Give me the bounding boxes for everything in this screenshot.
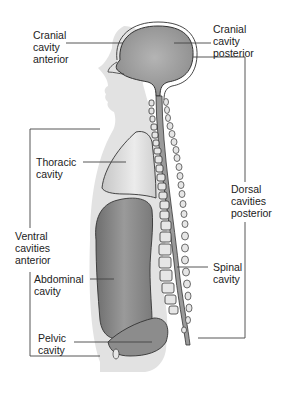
label-ventral-cavities-anterior: Ventral cavities anterior (15, 230, 51, 266)
label-thoracic-cavity: Thoracic cavity (36, 156, 76, 180)
label-spinal-cavity: Spinal cavity (213, 261, 242, 285)
label-dorsal-cavities-posterior: Dorsal cavities posterior (231, 183, 272, 219)
label-cranial-cavity-posterior: Cranial cavity posterior (213, 23, 254, 59)
label-pelvic-cavity: Pelvic cavity (38, 332, 66, 356)
pubic-bone (113, 349, 119, 359)
abdominal-cavity (96, 198, 153, 339)
label-cranial-cavity-anterior: Cranial cavity anterior (33, 29, 69, 65)
label-abdominal-cavity: Abdominal cavity (34, 273, 84, 297)
